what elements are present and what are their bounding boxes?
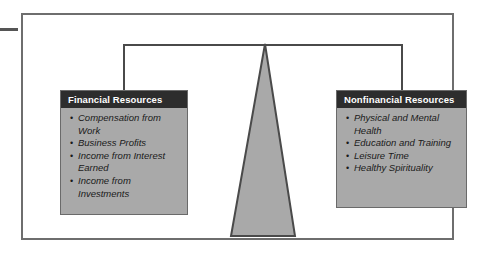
nonfinancial-resources-panel: Nonfinancial Resources Physical and Ment… bbox=[336, 90, 467, 208]
list-item: Compensation from Work bbox=[70, 112, 183, 137]
list-item: Healthy Spirituality bbox=[346, 162, 462, 175]
fulcrum-triangle-icon bbox=[227, 43, 299, 239]
financial-resources-panel: Financial Resources Compensation from Wo… bbox=[60, 90, 188, 215]
nonfinancial-resources-list: Physical and Mental Health Education and… bbox=[337, 108, 466, 175]
financial-resources-list: Compensation from Work Business Profits … bbox=[61, 108, 187, 200]
left-margin-rule bbox=[0, 28, 18, 31]
list-item: Business Profits bbox=[70, 137, 183, 150]
nonfinancial-resources-title: Nonfinancial Resources bbox=[337, 91, 466, 108]
list-item: Education and Training bbox=[346, 137, 462, 150]
list-item: Leisure Time bbox=[346, 150, 462, 163]
list-item: Income from Investments bbox=[70, 175, 183, 200]
figure-frame: Financial Resources Compensation from Wo… bbox=[21, 13, 454, 240]
list-item: Physical and Mental Health bbox=[346, 112, 462, 137]
list-item: Income from Interest Earned bbox=[70, 150, 183, 175]
financial-resources-title: Financial Resources bbox=[61, 91, 187, 108]
